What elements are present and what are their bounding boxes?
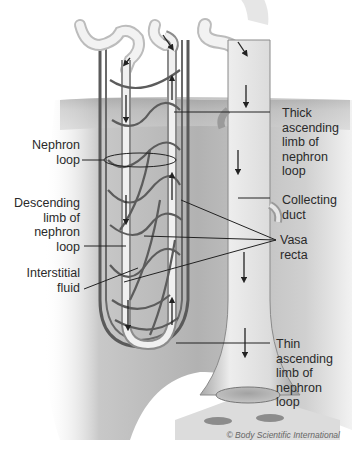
diagram-canvas: Thick ascending limb of nephron loop Nep… (0, 0, 352, 450)
label-vasa-recta: Vasa recta (280, 233, 308, 262)
label-interstitial-fluid: Interstitial fluid (0, 266, 80, 295)
label-nephron-loop: Nephron loop (0, 138, 80, 167)
copyright-credit: © Body Scientific International (226, 430, 340, 440)
label-thin-ascending-limb: Thin ascending limb of nephron loop (276, 337, 333, 410)
label-collecting-duct: Collecting duct (282, 193, 337, 222)
label-descending-limb: Descending limb of nephron loop (0, 196, 80, 254)
label-thick-ascending-limb: Thick ascending limb of nephron loop (282, 106, 339, 179)
